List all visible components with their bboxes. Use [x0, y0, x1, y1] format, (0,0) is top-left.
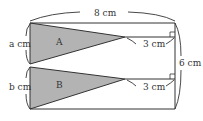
top-brace	[30, 12, 80, 21]
geometry-diagram: 8 cm a cm b cm 6 cm 3 cm 3 cm A B	[0, 0, 203, 121]
triangle-a-label: A	[55, 37, 63, 47]
top-width-label: 8 cm	[94, 8, 117, 18]
triangle-b	[30, 67, 125, 109]
left-b-label: b cm	[9, 82, 32, 92]
left-a-label: a cm	[9, 39, 31, 49]
segment-a-brace-right	[166, 38, 174, 44]
segment-b-brace-right	[166, 80, 174, 86]
right-brace-top	[175, 23, 181, 56]
right-angle-marker-b	[170, 74, 175, 79]
right-height-label: 6 cm	[179, 58, 202, 68]
left-brace-b-top	[26, 67, 30, 78]
segment-a-brace-left	[127, 38, 136, 44]
segment-b-brace-left	[127, 80, 136, 86]
left-brace-a-top	[26, 24, 30, 36]
top-brace-right	[128, 12, 175, 21]
triangle-a	[30, 23, 125, 64]
segment-b-label: 3 cm	[143, 82, 166, 92]
triangle-b-label: B	[56, 80, 63, 90]
left-brace-a-bottom	[26, 50, 30, 64]
right-angle-marker-a	[170, 32, 175, 37]
left-brace-b-bottom	[26, 94, 30, 109]
segment-a-label: 3 cm	[143, 39, 166, 49]
right-brace-bottom	[175, 70, 181, 109]
